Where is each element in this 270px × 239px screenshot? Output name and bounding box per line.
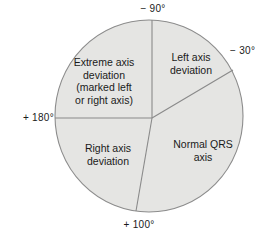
sector-label-normal-qrs-axis: Normal QRS axis	[161, 138, 245, 163]
sector-text-line: deviation	[156, 64, 226, 77]
degree-label-plus-100: + 100°	[104, 219, 174, 230]
sector-text-line: deviation	[66, 155, 150, 168]
sector-text-line: Extreme axis	[54, 56, 154, 69]
degree-label-minus-30: − 30°	[230, 45, 255, 56]
sector-text-line: or right axis)	[54, 94, 154, 107]
sector-label-right-axis-deviation: Right axis deviation	[66, 142, 150, 167]
axis-deviation-diagram: − 90° − 30° + 180° + 100° Extreme axis d…	[0, 0, 270, 239]
sector-text-line: (marked left	[54, 81, 154, 94]
sector-text-line: deviation	[54, 69, 154, 82]
sector-label-extreme-axis-deviation: Extreme axis deviation (marked left or r…	[54, 56, 154, 106]
sector-label-left-axis-deviation: Left axis deviation	[156, 51, 226, 76]
sector-text-line: Left axis	[156, 51, 226, 64]
sector-text-line: axis	[161, 151, 245, 164]
sector-text-line: Right axis	[66, 142, 150, 155]
circle-outline	[55, 20, 243, 212]
degree-label-minus-90: − 90°	[122, 3, 184, 14]
sector-text-line: Normal QRS	[161, 138, 245, 151]
degree-label-plus-180: + 180°	[8, 112, 54, 123]
